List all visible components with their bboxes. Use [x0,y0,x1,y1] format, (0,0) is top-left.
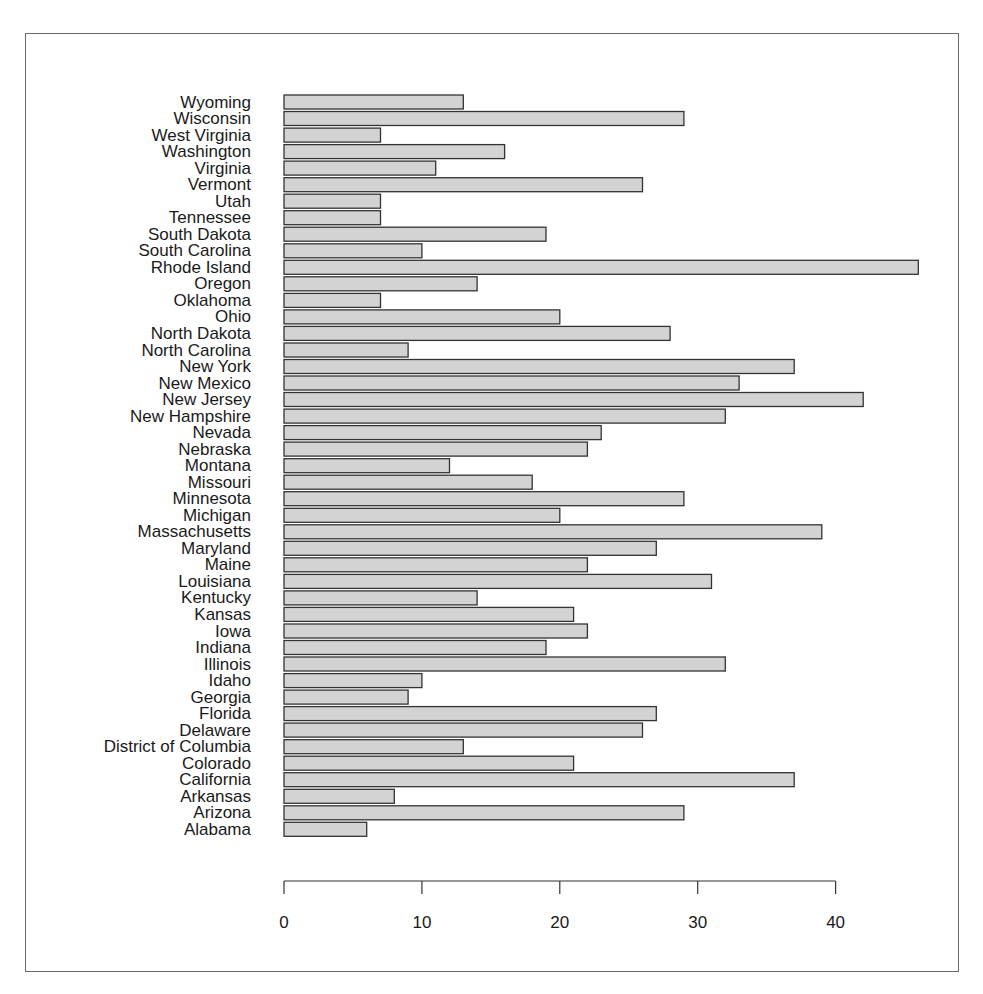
x-tick-label: 0 [279,913,288,932]
x-tick-label: 30 [688,913,707,932]
bar-minnesota [284,492,684,506]
category-label: Colorado [182,754,251,773]
bar-rhode-island [284,260,918,274]
category-label: Washington [162,142,251,161]
bar-colorado [284,756,574,770]
category-label: Kentucky [181,588,251,607]
category-label: Illinois [204,655,251,674]
category-label: Louisiana [178,572,251,591]
bar-kentucky [284,591,477,605]
category-label: Nevada [192,423,251,442]
bar-chart: AlabamaArizonaArkansasCaliforniaColorado… [0,0,983,994]
bar-michigan [284,508,560,522]
bar-district-of-columbia [284,740,463,754]
bar-missouri [284,475,532,489]
category-label: New Mexico [158,374,251,393]
bar-new-york [284,360,794,374]
bar-idaho [284,674,422,688]
category-label: Oregon [194,274,251,293]
bar-montana [284,459,450,473]
bar-south-carolina [284,244,422,258]
category-label: Arkansas [180,787,251,806]
bar-maryland [284,541,656,555]
category-label: Montana [185,456,252,475]
bar-wisconsin [284,112,684,126]
category-label: Ohio [215,307,251,326]
category-label: Kansas [194,605,251,624]
category-label: Wisconsin [174,109,251,128]
category-label: Iowa [215,622,251,641]
x-tick-label: 10 [412,913,431,932]
category-label: Indiana [195,638,251,657]
bar-louisiana [284,574,712,588]
bar-north-carolina [284,343,408,357]
bar-oklahoma [284,293,381,307]
category-labels: AlabamaArizonaArkansasCaliforniaColorado… [104,93,252,839]
category-label: Georgia [191,688,252,707]
bar-kansas [284,607,574,621]
bar-delaware [284,723,643,737]
bar-utah [284,194,381,208]
category-label: Florida [199,704,252,723]
x-axis: 010203040 [279,881,845,932]
bar-north-dakota [284,326,670,340]
category-label: Vermont [188,175,252,194]
bar-arkansas [284,789,394,803]
bar-indiana [284,641,546,655]
x-tick-label: 20 [550,913,569,932]
category-label: Rhode Island [151,258,251,277]
bar-maine [284,558,587,572]
category-label: Alabama [184,820,252,839]
bar-nebraska [284,442,587,456]
category-label: Massachusetts [138,522,251,541]
category-label: Tennessee [169,208,251,227]
bar-florida [284,707,656,721]
bar-california [284,773,794,787]
category-label: Nebraska [178,440,251,459]
bars-group [284,95,918,836]
bar-washington [284,145,505,159]
category-label: New Jersey [162,390,251,409]
bar-alabama [284,822,367,836]
category-label: South Carolina [139,241,252,260]
bar-georgia [284,690,408,704]
category-label: West Virginia [151,126,251,145]
category-label: District of Columbia [104,737,252,756]
category-label: Missouri [188,473,251,492]
category-label: Virginia [195,159,252,178]
category-label: Utah [215,192,251,211]
bar-massachusetts [284,525,822,539]
bar-iowa [284,624,587,638]
category-label: New Hampshire [130,407,251,426]
category-label: Maine [205,555,251,574]
bar-vermont [284,178,643,192]
bar-illinois [284,657,725,671]
category-label: Wyoming [180,93,251,112]
category-label: Maryland [181,539,251,558]
bar-wyoming [284,95,463,109]
category-label: New York [179,357,251,376]
x-tick-label: 40 [826,913,845,932]
category-label: Arizona [193,803,251,822]
bar-oregon [284,277,477,291]
bar-south-dakota [284,227,546,241]
category-label: Michigan [183,506,251,525]
bar-west-virginia [284,128,381,142]
category-label: California [179,770,251,789]
category-label: Idaho [208,671,251,690]
bar-nevada [284,426,601,440]
bar-arizona [284,806,684,820]
category-label: Oklahoma [174,291,252,310]
bar-ohio [284,310,560,324]
bar-new-jersey [284,393,863,407]
category-label: North Dakota [151,324,252,343]
bar-tennessee [284,211,381,225]
category-label: North Carolina [141,341,251,360]
bar-new-mexico [284,376,739,390]
bar-virginia [284,161,436,175]
category-label: South Dakota [148,225,252,244]
category-label: Delaware [179,721,251,740]
bar-new-hampshire [284,409,725,423]
category-label: Minnesota [173,489,252,508]
